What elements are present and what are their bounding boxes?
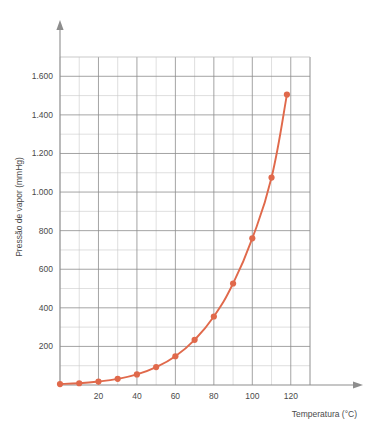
data-point-markers: 0 °C, 5 mmHg10 °C, 9 mmHg20 °C, 18 mmHg3… <box>57 92 290 388</box>
y-axis-title: Pressão de vapor (mmHg) <box>14 157 24 257</box>
data-point-marker: 80 °C, 355 mmHg <box>211 313 217 319</box>
y-tick-label: 1.000 <box>32 187 54 197</box>
grid-minor-vertical <box>60 57 310 385</box>
data-point-marker: 90 °C, 526 mmHg <box>230 280 236 286</box>
x-tick-label: 80 <box>209 391 219 401</box>
data-point-marker: 60 °C, 149 mmHg <box>172 353 178 359</box>
data-point-marker: 30 °C, 32 mmHg <box>115 376 121 382</box>
data-point-marker: 100 °C, 760 mmHg <box>249 235 255 241</box>
x-axis-arrow-icon <box>353 381 363 388</box>
data-point-marker: 20 °C, 18 mmHg <box>95 378 101 384</box>
x-tick-labels: 20406080100120 <box>94 391 298 401</box>
y-tick-label: 1.600 <box>32 71 54 81</box>
x-tick-label: 60 <box>171 391 181 401</box>
chart-canvas: 2004006008001.0001.2001.4001.600 2040608… <box>0 0 380 432</box>
x-axis-title: Temperatura (°C) <box>292 409 357 419</box>
x-axis <box>60 381 363 388</box>
y-tick-label: 400 <box>39 303 53 313</box>
vapor-pressure-chart: 2004006008001.0001.2001.4001.600 2040608… <box>0 0 380 432</box>
y-axis <box>56 20 63 385</box>
y-tick-labels: 2004006008001.0001.2001.4001.600 <box>32 71 54 351</box>
y-tick-label: 200 <box>39 341 53 351</box>
data-point-marker: 118 °C, 1505 mmHg <box>284 92 290 98</box>
data-point-marker: 70 °C, 234 mmHg <box>192 337 198 343</box>
y-axis-arrow-icon <box>56 20 63 30</box>
x-tick-label: 40 <box>132 391 142 401</box>
y-tick-label: 800 <box>39 226 53 236</box>
data-point-marker: 110 °C, 1075 mmHg <box>268 174 274 180</box>
grid-major-vertical <box>60 57 310 385</box>
grid-minor-horizontal <box>60 57 310 366</box>
data-point-marker: 50 °C, 93 mmHg <box>153 364 159 370</box>
data-point-marker: 10 °C, 9 mmHg <box>76 380 82 386</box>
x-tick-label: 120 <box>284 391 298 401</box>
x-tick-label: 100 <box>245 391 259 401</box>
data-point-marker: 40 °C, 55 mmHg <box>134 371 140 377</box>
data-point-marker: 0 °C, 5 mmHg <box>57 381 63 387</box>
y-tick-label: 1.200 <box>32 148 54 158</box>
y-tick-label: 600 <box>39 264 53 274</box>
y-tick-label: 1.400 <box>32 110 54 120</box>
x-tick-label: 20 <box>94 391 104 401</box>
